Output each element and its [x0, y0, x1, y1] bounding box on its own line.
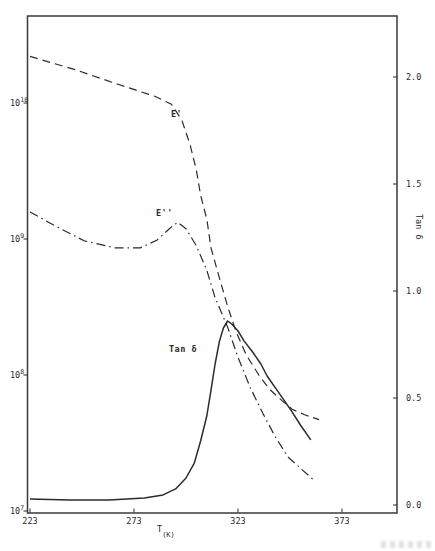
x-tick-label: 273: [126, 516, 141, 526]
series-label-e-double-prime: E'': [156, 208, 173, 218]
right-tick-label: 1.0: [406, 286, 421, 296]
left-tick-label: 108: [10, 368, 24, 381]
x-tick-label: 323: [230, 516, 245, 526]
left-tick-exponent: 9: [20, 232, 24, 240]
series-label-e-prime: E': [171, 109, 182, 119]
left-tick-label: 107: [10, 504, 24, 517]
figure-scan: 22327332337310710810910100.00.51.01.52.0…: [0, 0, 435, 551]
plot-frame: [28, 16, 398, 513]
right-tick-label: 1.5: [406, 179, 421, 189]
axis-ticks-layer: 22327332337310710810910100.00.51.01.52.0: [10, 72, 421, 526]
x-tick-label: 373: [334, 516, 349, 526]
x-tick-label: 223: [22, 516, 37, 526]
series-label-tan-delta: Tan δ: [169, 344, 197, 354]
right-tick-label: 0.5: [406, 393, 421, 403]
x-axis-title: T(K): [157, 524, 175, 539]
left-tick-exponent: 10: [20, 96, 28, 104]
dma-chart: 22327332337310710810910100.00.51.01.52.0…: [0, 0, 435, 551]
right-tick-label: 2.0: [406, 72, 421, 82]
right-axis-title: Tan δ: [414, 214, 424, 240]
left-tick-exponent: 7: [20, 504, 24, 512]
left-tick-label: 109: [10, 232, 24, 245]
left-tick-exponent: 8: [20, 368, 24, 376]
left-tick-label: 1010: [10, 96, 28, 109]
scan-artifact-smudge: [381, 541, 433, 548]
right-tick-label: 0.0: [406, 500, 421, 510]
series-layer: [30, 56, 319, 500]
x-axis-title-unit: (K): [162, 531, 175, 539]
